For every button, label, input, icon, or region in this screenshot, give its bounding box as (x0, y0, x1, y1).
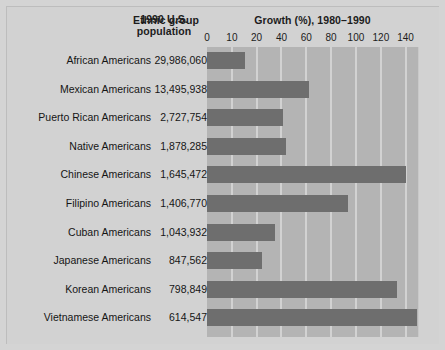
row-value-population: 1,645,472 (126, 166, 207, 183)
bar (207, 52, 245, 69)
table-row: Chinese Americans1,645,472 (8, 166, 207, 183)
column-header-population-line1: 1990 U.S. (126, 14, 202, 26)
table-row: Korean Americans798,849 (8, 281, 207, 298)
column-header-population-line2: population (126, 26, 202, 38)
x-tick-label: 40 (276, 32, 287, 43)
row-value-population: 13,495,938 (126, 81, 207, 98)
row-label-table: African Americans29,986,060Mexican Ameri… (8, 47, 207, 337)
row-value-population: 614,547 (126, 309, 207, 326)
x-tick-label: 0 (204, 32, 210, 43)
x-axis-tick-labels: 01020406080100120140 (207, 32, 418, 46)
gridline (405, 47, 407, 337)
x-tick-label: 60 (301, 32, 312, 43)
x-tick-label: 80 (326, 32, 337, 43)
bar (207, 138, 286, 155)
table-row: Japanese Americans847,562 (8, 252, 207, 269)
row-value-population: 29,986,060 (126, 52, 207, 69)
x-tick-label: 120 (373, 32, 390, 43)
table-row: Filipino Americans1,406,770 (8, 195, 207, 212)
row-value-population: 798,849 (126, 281, 207, 298)
table-row: Mexican Americans13,495,938 (8, 81, 207, 98)
bar (207, 224, 275, 241)
bar (207, 309, 417, 326)
chart-title: Growth (%), 1980–1990 (207, 14, 418, 26)
bar (207, 281, 397, 298)
row-value-population: 847,562 (126, 252, 207, 269)
row-value-population: 1,406,770 (126, 195, 207, 212)
row-value-population: 1,043,932 (126, 224, 207, 241)
row-value-population: 1,878,285 (126, 138, 207, 155)
column-header-population: 1990 U.S. population (126, 14, 202, 37)
x-tick-label: 100 (348, 32, 365, 43)
table-row: Vietnamese Americans614,547 (8, 309, 207, 326)
table-row: Native Americans1,878,285 (8, 138, 207, 155)
row-value-population: 2,727,754 (126, 109, 207, 126)
x-tick-label: 10 (226, 32, 237, 43)
bar (207, 252, 262, 269)
bar (207, 195, 348, 212)
x-tick-label: 20 (251, 32, 262, 43)
bar (207, 166, 406, 183)
table-row: Cuban Americans1,043,932 (8, 224, 207, 241)
figure: Ethnic group 1990 U.S. population Growth… (0, 0, 445, 350)
plot-area (207, 47, 419, 337)
table-row: African Americans29,986,060 (8, 52, 207, 69)
bar (207, 109, 283, 126)
table-row: Puerto Rican Americans2,727,754 (8, 109, 207, 126)
x-tick-label: 140 (397, 32, 414, 43)
bar (207, 81, 309, 98)
